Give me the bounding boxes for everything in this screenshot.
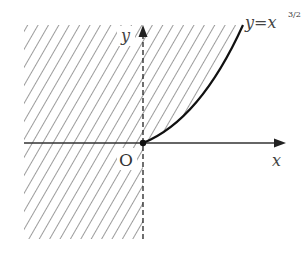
hatched-region-above-curve — [143, 25, 243, 143]
curve-exponent-label: 3/2 — [288, 10, 301, 19]
hatched-region-left — [24, 25, 143, 239]
curve-label: y=x — [244, 13, 276, 32]
function-region-diagram: O y x y=x 3/2 — [0, 0, 308, 256]
y-axis-label: y — [120, 26, 131, 45]
x-axis-arrow-icon — [274, 139, 286, 148]
x-axis-label: x — [272, 151, 281, 170]
origin-label: O — [119, 150, 133, 170]
origin-point — [140, 140, 146, 146]
